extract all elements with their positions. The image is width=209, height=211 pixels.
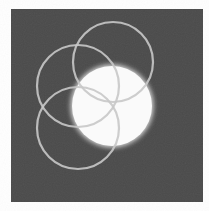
overlapping-circles-diagram	[0, 0, 209, 211]
